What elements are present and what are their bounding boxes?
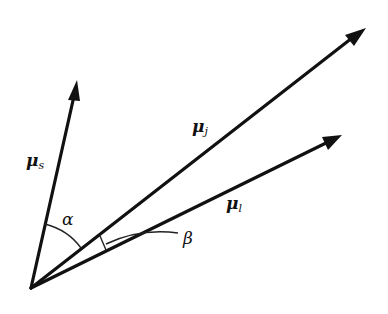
vector-mu-l bbox=[31, 135, 342, 288]
vector-mu-s-arrowhead bbox=[68, 80, 80, 101]
vector-mu-l-line bbox=[31, 142, 328, 288]
vector-mu-j-line bbox=[31, 38, 352, 288]
label-mu-l: μl bbox=[226, 193, 242, 215]
vector-mu-l-arrowhead bbox=[322, 135, 342, 150]
label-mu-j: μj bbox=[192, 116, 208, 138]
angle-beta-arc bbox=[100, 236, 106, 250]
vector-diagram: μs μj μl α β bbox=[0, 0, 388, 314]
vector-mu-j bbox=[31, 28, 366, 288]
label-alpha: α bbox=[62, 209, 74, 229]
label-beta: β bbox=[182, 228, 193, 248]
label-mu-s: μs bbox=[26, 150, 44, 172]
vector-mu-j-arrowhead bbox=[345, 28, 366, 46]
angle-beta-leader bbox=[106, 232, 178, 244]
